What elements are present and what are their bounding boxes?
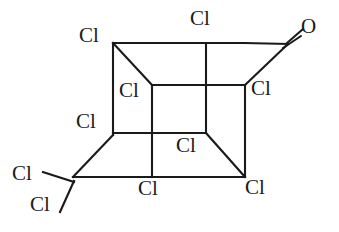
atom-label-cl-right-middle: Cl (251, 78, 271, 99)
atom-label-cl-bottom-right: Cl (245, 177, 265, 198)
bond-diagonal-bottom-right (206, 133, 245, 177)
bond-ccl2-left (43, 172, 74, 182)
bond-ccl2-lower (60, 181, 74, 212)
atom-label-cl-lower-left-b: Cl (30, 194, 50, 215)
atom-label-o-carbonyl: O (301, 16, 316, 37)
atom-label-cl-inner-upper: Cl (119, 80, 139, 101)
atom-label-cl-top-left: Cl (79, 25, 99, 46)
chemical-structure-figure: Cl Cl O Cl Cl Cl Cl Cl Cl Cl Cl (0, 0, 339, 232)
carbonyl-double-bond (283, 29, 303, 48)
bond-diagonal-bottom-left (73, 135, 113, 177)
bond-carbonyl-upper-arm (245, 43, 288, 44)
atom-label-cl-bottom-middle: Cl (138, 178, 158, 199)
atom-label-cl-left-middle: Cl (76, 111, 96, 132)
structure-bond-drawing (0, 0, 339, 232)
atom-label-cl-top-middle: Cl (190, 8, 210, 29)
atom-label-cl-inner-lower: Cl (176, 135, 196, 156)
atom-label-cl-lower-left-a: Cl (12, 163, 32, 184)
